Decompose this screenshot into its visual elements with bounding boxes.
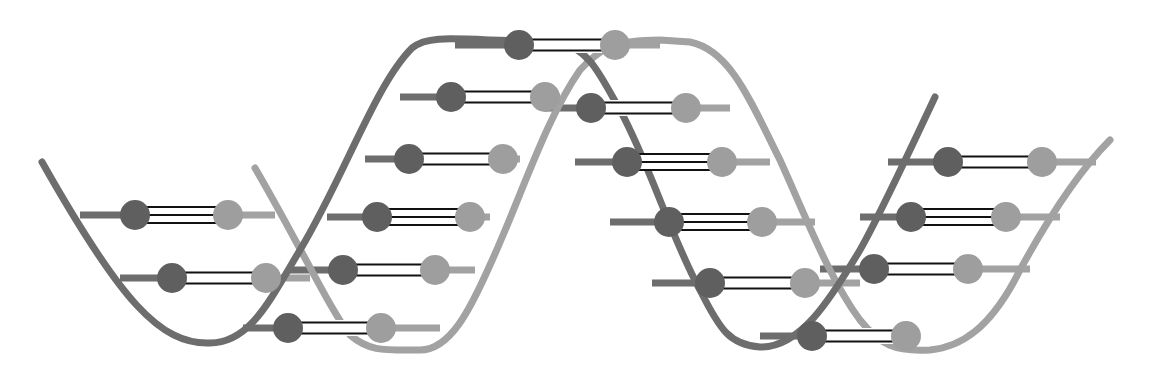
nucleotide-b [747,207,777,237]
backbone-strand-a [42,39,935,347]
dna-helix-diagram: DNA double helix [0,0,1160,377]
nucleotide-b [213,200,243,230]
nucleotide-a [654,207,684,237]
nucleotide-b [455,202,485,232]
nucleotide-b [420,255,450,285]
nucleotide-b [488,144,518,174]
nucleotide-a [120,200,150,230]
nucleotide-b [600,30,630,60]
base-pair-connectors [80,45,1096,336]
nucleotide-b [790,268,820,298]
nucleotide-b [991,202,1021,232]
nucleotides [120,30,1057,351]
nucleotide-a [896,202,926,232]
nucleotide-b [251,263,281,293]
nucleotide-a [797,321,827,351]
nucleotide-b [1027,147,1057,177]
nucleotide-b [891,321,921,351]
nucleotide-b [953,254,983,284]
nucleotide-a [933,147,963,177]
nucleotide-b [530,82,560,112]
nucleotide-b [707,147,737,177]
nucleotide-a [328,255,358,285]
nucleotide-b [671,93,701,123]
nucleotide-a [695,268,725,298]
nucleotide-a [362,202,392,232]
nucleotide-a [576,93,606,123]
nucleotide-a [504,30,534,60]
nucleotide-a [394,144,424,174]
dna-helix-canvas [0,0,1160,377]
nucleotide-a [859,254,889,284]
nucleotide-a [612,147,642,177]
nucleotide-a [436,82,466,112]
nucleotide-a [273,313,303,343]
nucleotide-a [157,263,187,293]
nucleotide-b [366,313,396,343]
